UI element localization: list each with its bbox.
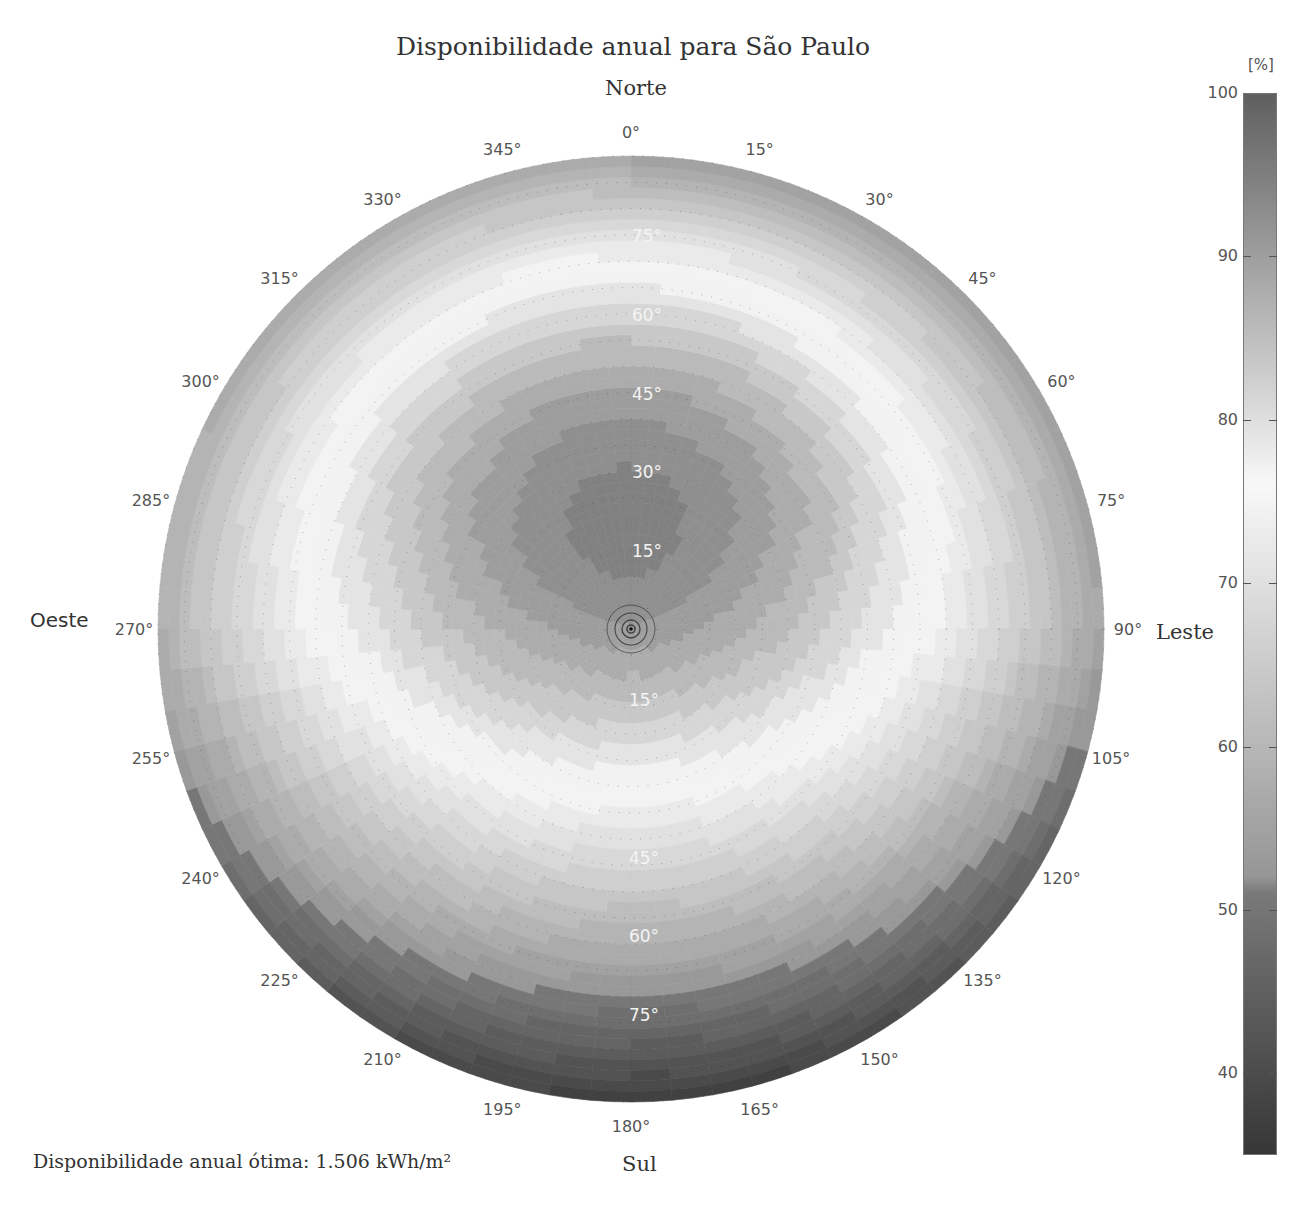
heatmap-cell xyxy=(662,625,673,629)
heatmap-cell xyxy=(620,744,631,755)
heatmap-cell xyxy=(515,629,526,639)
heatmap-cell xyxy=(683,624,694,629)
heatmap-cell xyxy=(799,613,810,629)
heatmap-cell xyxy=(631,177,670,189)
heatmap-cell xyxy=(274,598,286,629)
heatmap-cell xyxy=(1039,629,1051,666)
heatmap-cell xyxy=(631,324,658,336)
heatmap-cell xyxy=(799,629,810,645)
heatmap-cell xyxy=(819,629,830,646)
colorbar-tick-mark xyxy=(1269,420,1277,421)
heatmap-cell xyxy=(613,524,623,536)
heatmap-cell xyxy=(757,617,768,629)
heatmap-cell xyxy=(1039,592,1051,629)
heatmap-cell xyxy=(515,619,526,629)
heatmap-cell xyxy=(494,617,505,629)
heatmap-cell xyxy=(358,605,370,629)
heatmap-cell xyxy=(484,641,496,655)
heatmap-cell xyxy=(347,629,359,654)
colorbar-tick-label: 100 xyxy=(1194,83,1238,102)
heatmap-cell xyxy=(589,629,600,633)
heatmap-cell xyxy=(914,629,926,655)
heatmap-cell xyxy=(1018,629,1030,664)
heatmap-cell xyxy=(605,482,619,494)
heatmap-cell xyxy=(596,1016,631,1028)
heatmap-cell xyxy=(631,1058,669,1070)
heatmap-cell xyxy=(568,629,579,634)
heatmap-cell xyxy=(615,450,631,461)
heatmap-cell xyxy=(631,356,655,368)
heatmap-cell xyxy=(966,629,978,659)
heatmap-cell xyxy=(421,611,432,629)
heatmap-cell xyxy=(639,722,649,734)
heatmap-cell xyxy=(284,629,296,659)
heatmap-cell xyxy=(631,293,660,305)
heatmap-cell xyxy=(536,629,547,637)
heatmap-cell xyxy=(631,734,641,745)
heatmap-cell xyxy=(400,609,411,629)
heatmap-cell xyxy=(631,345,656,357)
heatmap-cell xyxy=(505,618,516,629)
heatmap-cell xyxy=(536,621,547,629)
heatmap-cell xyxy=(221,629,233,665)
heatmap-cell xyxy=(295,600,307,629)
azimuth-tick-label: 30° xyxy=(865,190,893,209)
colorbar-tick-mark xyxy=(1243,256,1251,257)
heatmap-cell xyxy=(609,377,631,388)
heatmap-cell xyxy=(484,616,495,629)
heatmap-cell xyxy=(809,613,820,629)
colorbar-tick-label: 40 xyxy=(1194,1063,1238,1082)
azimuth-tick-label: 0° xyxy=(622,123,640,142)
heatmap-cell xyxy=(945,629,957,657)
heatmap-cell xyxy=(631,744,642,755)
heatmap-cell xyxy=(295,629,307,658)
heatmap-cell xyxy=(463,614,474,629)
heatmap-cell xyxy=(631,660,635,671)
heatmap-cell xyxy=(602,461,617,473)
heatmap-cell xyxy=(631,671,636,682)
heatmap-cell xyxy=(547,635,558,643)
heatmap-cell xyxy=(608,880,631,891)
heatmap-cell xyxy=(956,600,968,629)
heatmap-cell xyxy=(594,1037,631,1049)
heatmap-cell xyxy=(631,408,650,419)
heatmap-cell xyxy=(914,603,926,629)
heatmap-cell xyxy=(621,734,631,745)
heatmap-cell xyxy=(924,602,936,629)
azimuth-tick-label: 270° xyxy=(115,620,154,639)
heatmap-cell xyxy=(851,609,862,629)
heatmap-cell xyxy=(631,482,644,493)
heatmap-cell xyxy=(631,723,640,734)
heatmap-cell xyxy=(604,472,619,484)
heatmap-cell xyxy=(1050,629,1062,667)
heatmap-cell xyxy=(977,629,989,660)
heatmap-cell xyxy=(893,629,905,653)
heatmap-cell xyxy=(776,642,788,657)
heatmap-cell xyxy=(673,624,684,629)
heatmap-cell xyxy=(642,753,655,765)
direction-west-label: Oeste xyxy=(30,608,89,632)
heatmap-cell xyxy=(1071,590,1083,629)
heatmap-cell xyxy=(622,723,631,734)
heatmap-cell xyxy=(505,639,517,651)
heatmap-cell xyxy=(604,922,631,934)
heatmap-cell xyxy=(463,600,475,615)
heatmap-cell xyxy=(715,629,726,637)
colorbar-tick-label: 80 xyxy=(1194,410,1238,429)
colorbar-unit: [%] xyxy=(1248,56,1274,74)
heatmap-cell xyxy=(626,566,631,577)
heatmap-cell xyxy=(592,177,631,189)
colorbar-tick-mark xyxy=(1269,747,1277,748)
heatmap-cell xyxy=(715,621,726,629)
colorbar-tick-mark xyxy=(1243,420,1251,421)
heatmap-cell xyxy=(211,629,223,666)
heatmap-cell xyxy=(599,261,631,273)
azimuth-tick-label: 45° xyxy=(968,269,996,288)
heatmap-cell xyxy=(607,753,620,765)
heatmap-cell xyxy=(190,591,202,629)
heatmap-cell xyxy=(473,629,484,643)
heatmap-cell xyxy=(599,985,631,997)
heatmap-cell xyxy=(631,713,639,724)
heatmap-cell xyxy=(882,606,893,629)
heatmap-cell xyxy=(410,629,421,648)
